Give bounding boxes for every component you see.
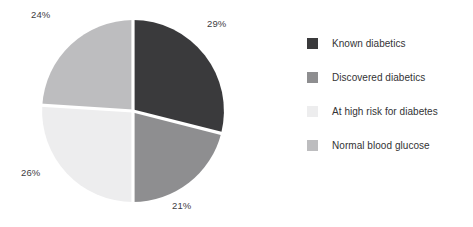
pie-slice-at-high-risk[interactable] (42, 105, 133, 202)
legend-item-at-high-risk[interactable]: At high risk for diabetes (307, 104, 473, 118)
legend-item-discovered-diabetics[interactable]: Discovered diabetics (307, 70, 473, 84)
legend-item-label: Known diabetics (332, 38, 406, 49)
pie-plot-area: 24% 29% 26% 21% (0, 0, 260, 227)
pie-value-label-at-high-risk: 26% (21, 167, 40, 178)
legend-item-normal-blood-glucose[interactable]: Normal blood glucose (307, 138, 473, 152)
pie-chart: 24% 29% 26% 21% Known diabetics Discover… (0, 0, 473, 227)
legend-swatch-icon (307, 106, 318, 117)
pie-svg (0, 0, 260, 227)
pie-value-label-known-diabetics: 29% (207, 18, 226, 29)
legend-item-label: At high risk for diabetes (332, 106, 438, 117)
pie-value-label-normal-blood-glucose: 24% (31, 9, 50, 20)
legend-item-label: Discovered diabetics (332, 72, 425, 83)
legend-swatch-icon (307, 38, 318, 49)
pie-value-label-discovered-diabetics: 21% (172, 200, 191, 211)
legend-swatch-icon (307, 72, 318, 83)
chart-legend: Known diabetics Discovered diabetics At … (307, 36, 473, 152)
legend-item-known-diabetics[interactable]: Known diabetics (307, 36, 473, 50)
pie-slice-normal-blood-glucose[interactable] (42, 20, 133, 111)
legend-swatch-icon (307, 140, 318, 151)
legend-item-label: Normal blood glucose (332, 140, 430, 151)
